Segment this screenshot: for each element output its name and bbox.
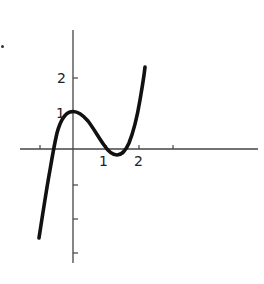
function-curve [39,67,145,238]
x-tick-label-2: 2 [134,154,143,168]
stray-dot [1,45,4,48]
y-ticks [73,78,78,253]
y-tick-label-1: 1 [56,106,65,120]
x-tick-label-1: 1 [99,154,108,168]
y-tick-label-2: 2 [57,71,66,85]
function-plot [0,0,264,284]
